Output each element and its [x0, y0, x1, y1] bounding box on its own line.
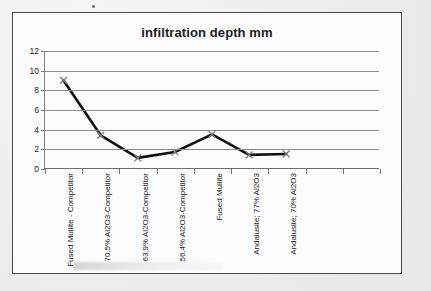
- x-axis-category-label: Andalusite; 70% Al2O3: [289, 173, 298, 255]
- gridline: [45, 51, 379, 52]
- gridline: [45, 149, 379, 150]
- y-axis-tick: [41, 149, 45, 150]
- gridline: [45, 110, 379, 111]
- y-axis-tick-label: 8: [34, 85, 39, 95]
- data-point-marker: [60, 77, 67, 84]
- y-axis-tick-label: 6: [34, 105, 39, 115]
- gridline: [45, 90, 379, 91]
- y-axis-tick: [41, 110, 45, 111]
- plot-grid: 024681012: [44, 51, 379, 169]
- y-axis-tick-label: 2: [34, 144, 39, 154]
- x-axis-category-label: 56.4% Al2O3-Competitor: [178, 173, 187, 262]
- chart-frame: infiltration depth mm 024681012 Fused Mu…: [12, 12, 402, 274]
- y-axis-tick-label: 4: [34, 125, 39, 135]
- x-axis-category-label: Fused Mullite: [215, 173, 224, 221]
- x-axis-category-label: Fused Mullite - Competitor: [66, 173, 75, 267]
- y-axis-tick: [41, 90, 45, 91]
- y-axis-tick-label: 10: [30, 66, 39, 76]
- series-polyline: [64, 80, 287, 157]
- x-axis-category-label: 70.5% Al2O3-Competitor: [103, 173, 112, 262]
- y-axis-tick: [41, 51, 45, 52]
- y-axis-tick-label: 12: [30, 46, 39, 56]
- scan-speck-top: [92, 5, 95, 8]
- y-axis-tick-label: 0: [34, 164, 39, 174]
- x-axis-category-labels: Fused Mullite - Competitor70.5% Al2O3-Co…: [44, 169, 379, 269]
- plot-area: 024681012: [44, 51, 379, 169]
- y-axis-tick: [41, 130, 45, 131]
- x-axis-category-label: 63.9% Al2O3-Competitor: [141, 173, 150, 262]
- chart-title: infiltration depth mm: [13, 25, 401, 40]
- gridline: [45, 71, 379, 72]
- gridline: [45, 130, 379, 131]
- x-axis-tick: [380, 169, 381, 174]
- y-axis-tick: [41, 71, 45, 72]
- x-axis-category-label: Andalusite; 77% Al2O3: [252, 173, 261, 255]
